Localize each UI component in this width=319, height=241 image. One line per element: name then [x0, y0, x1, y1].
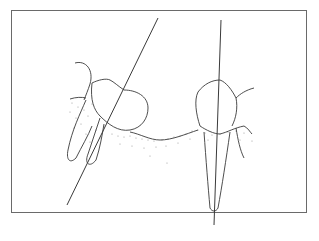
frame-border [12, 11, 307, 213]
right-axis-line [214, 20, 221, 225]
dental-diagram [0, 0, 319, 241]
right-tooth [196, 80, 254, 211]
illustration [0, 0, 319, 241]
left-tooth [67, 62, 198, 164]
